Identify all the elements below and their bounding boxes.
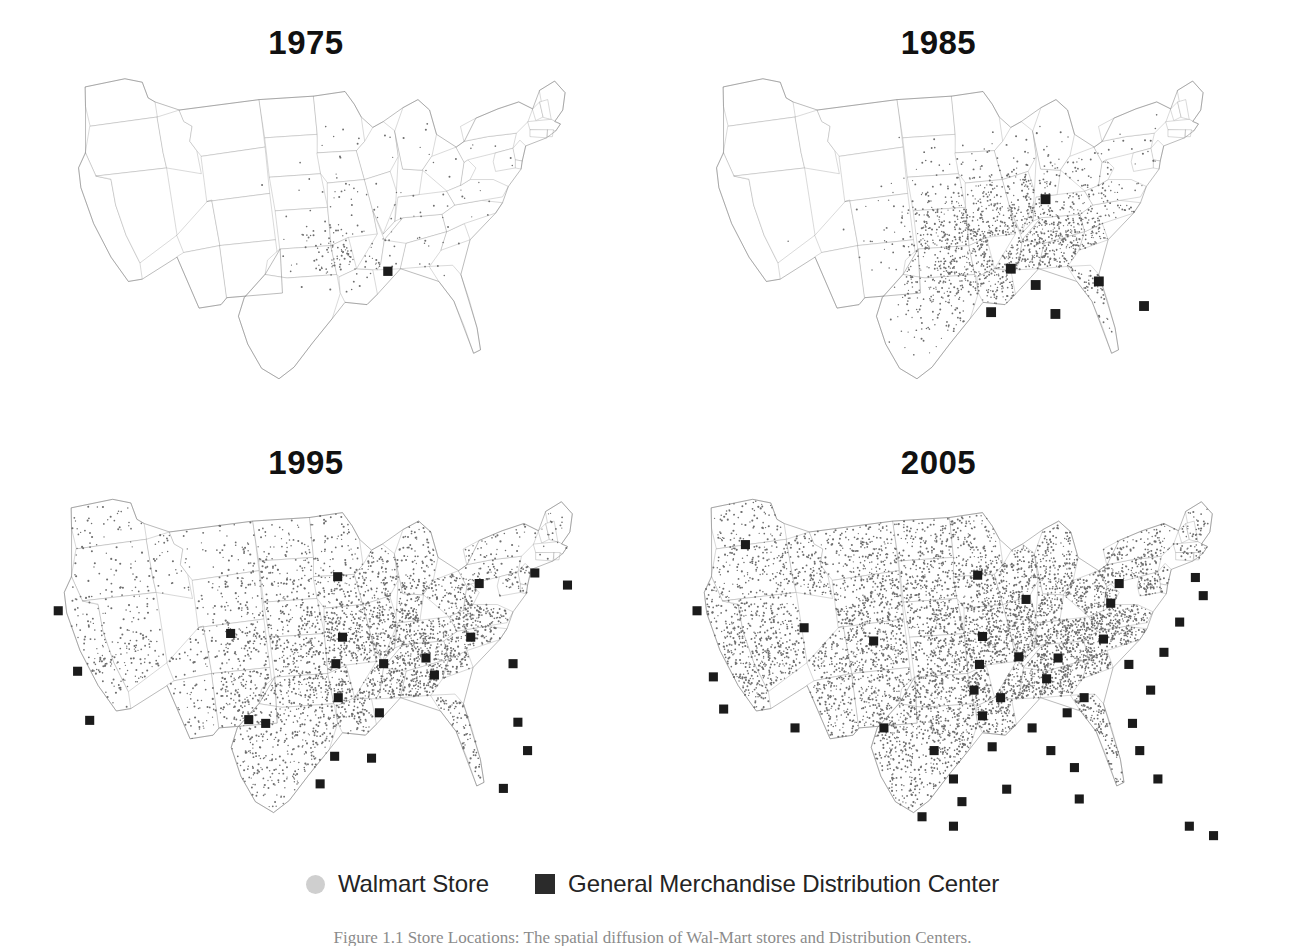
legend-label-store: Walmart Store [338,870,489,898]
panel-title-1995: 1995 [0,444,632,482]
state-sd [903,134,959,177]
distribution-center-marker-45 [1002,785,1011,794]
state-mn [310,513,363,577]
distribution-center-marker-10 [334,693,343,702]
state-ia [317,151,364,183]
distribution-center-marker-40 [1175,618,1184,627]
state-az [167,673,219,738]
distribution-center-marker-18 [475,579,484,588]
distribution-center-marker-4 [719,705,728,714]
distribution-center-marker-13 [949,822,958,831]
distribution-center-marker-16 [975,660,984,669]
distribution-center-marker-15 [978,632,987,641]
distribution-center-marker-20 [996,693,1005,702]
distribution-center-marker-1 [1041,194,1051,204]
distribution-center-marker-39 [1159,648,1168,657]
distribution-center-marker-5 [244,715,253,724]
distribution-center-marker-3 [709,672,718,681]
distribution-center-marker-42 [1199,591,1208,600]
state-ne [270,174,328,211]
distribution-center-marker-18 [978,711,987,720]
distribution-center-marker-6 [1094,276,1104,286]
state-fl [431,694,484,786]
state-or [724,117,805,176]
panel-title-2005: 2005 [612,444,1265,482]
distribution-center-marker-6 [800,623,809,632]
legend-item-store: Walmart Store [306,870,489,898]
distribution-center-marker-7 [333,572,342,581]
state-fl [1071,694,1124,786]
state-wy [193,571,264,628]
map-2005 [680,486,1285,864]
panel-title-1975: 1975 [0,24,632,62]
state-or [72,539,157,601]
state-nd [897,96,955,138]
distribution-center-square-icon [535,874,555,894]
distribution-center-marker-44 [1209,831,1218,840]
panel-1975: 1975 [0,0,652,440]
distribution-center-marker-27 [1063,708,1072,717]
state-nd [259,96,317,138]
distribution-center-marker-5 [790,723,799,732]
distribution-center-marker-15 [421,653,430,662]
distribution-center-marker-1 [741,540,750,549]
state-tx [238,275,340,379]
distribution-center-marker-22 [1022,595,1031,604]
walmart-diffusion-figure: 1975 1985 1995 2005 Walmart Store Genera… [0,0,1305,946]
distribution-center-marker-4 [226,629,235,638]
state-ks [275,207,331,249]
distribution-center-marker-38 [1153,774,1162,783]
distribution-center-marker-1 [383,267,392,276]
distribution-center-marker-14 [379,659,388,668]
state-tx [876,275,978,379]
distribution-center-marker-5 [1050,309,1060,319]
distribution-center-marker-11 [330,752,339,761]
map-1995 [40,486,645,864]
distribution-center-marker-7 [1139,301,1149,311]
distribution-center-marker-2 [73,667,82,676]
distribution-center-marker-35 [1128,719,1137,728]
distribution-center-marker-41 [1191,573,1200,582]
distribution-center-marker-2 [692,606,701,615]
usmap-svg-2005 [680,486,1285,864]
distribution-center-marker-24 [1042,674,1051,683]
state-az [815,246,865,309]
distribution-center-marker-8 [879,723,888,732]
distribution-center-marker-31 [1099,635,1108,644]
distribution-center-marker-22 [563,581,572,590]
distribution-center-marker-3 [85,716,94,725]
state-la [339,269,377,305]
distribution-center-marker-9 [331,659,340,668]
state-ia [955,151,1002,183]
state-nd [253,517,313,561]
distribution-center-marker-12 [375,708,384,717]
distribution-center-marker-25 [1046,746,1055,755]
state-boundaries [704,499,1212,812]
distribution-center-marker-17 [466,633,475,642]
state-ct [530,130,547,138]
legend: Walmart Store General Merchandise Distri… [0,864,1305,904]
distribution-center-marker-17 [969,686,978,695]
distribution-center-marker-23 [523,746,532,755]
distribution-center-marker-7 [869,636,878,645]
distribution-center-marker-28 [1070,763,1079,772]
distribution-center-marker-4 [986,307,996,317]
distribution-center-marker-10 [949,774,958,783]
state-az [177,246,227,309]
state-boundaries [64,499,572,812]
state-sd [265,134,321,177]
legend-item-dc: General Merchandise Distribution Center [535,870,999,898]
distribution-center-marker-1 [54,606,63,615]
store-dot-icon [306,875,325,894]
state-boundaries [79,79,566,379]
figure-caption: Figure 1.1 Store Locations: The spatial … [0,928,1305,946]
distribution-center-marker-14 [973,571,982,580]
state-ny [463,523,538,564]
distribution-center-marker-36 [1135,746,1144,755]
distribution-center-marker-26 [1054,653,1063,662]
distribution-center-marker-19 [988,742,997,751]
panel-title-1985: 1985 [612,24,1265,62]
state-mn [952,91,1003,152]
state-tx [871,704,977,813]
distribution-center-marker-21 [530,568,539,577]
